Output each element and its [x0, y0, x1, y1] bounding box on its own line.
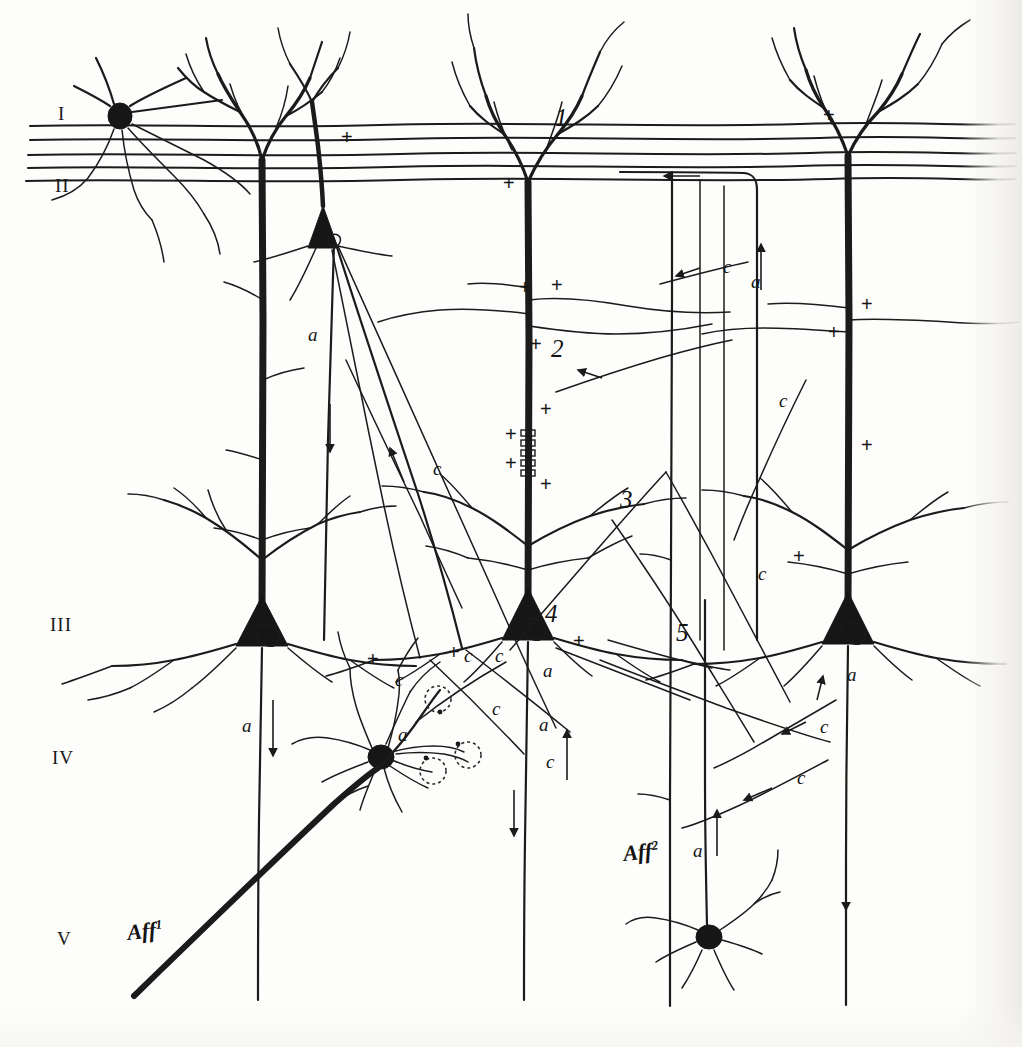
plus-marker: + — [367, 648, 379, 670]
plus-marker: + — [828, 321, 840, 343]
plus-marker: + — [823, 104, 835, 126]
plus-marker: + — [519, 276, 531, 298]
layer-label-iii: III — [50, 614, 72, 635]
collateral-label-9: c — [758, 563, 767, 584]
collateral-label-8: c — [779, 390, 788, 411]
afferent-label-1: Aff1 — [124, 916, 164, 945]
plus-markers: + + + + + + + + + + + + + + + + + — [341, 104, 873, 670]
axon-label-4: a — [543, 660, 553, 681]
marker-1: 1 — [555, 104, 568, 131]
plus-marker: + — [503, 172, 515, 194]
axon-label-6: a — [751, 271, 761, 292]
layer-label-ii: II — [55, 175, 70, 196]
pyramid-layer1-horizontal — [52, 58, 250, 262]
collateral-label-5: c — [492, 698, 501, 719]
collateral-label-1: c — [433, 458, 442, 479]
numbered-markers: 1 2 3 4 5 — [545, 104, 689, 646]
axon-label-7: a — [847, 664, 857, 685]
axon-label-5: a — [539, 714, 549, 735]
collateral-label-4: c — [495, 645, 504, 666]
plus-marker: + — [530, 333, 542, 355]
ascending-axon-to-layer1 — [620, 172, 761, 640]
plus-marker: + — [505, 423, 517, 445]
axon-label-2: a — [242, 715, 252, 736]
collateral-label-6: c — [546, 751, 555, 772]
axon-label-8: a — [693, 840, 703, 861]
pyramid-layer2-small — [254, 28, 462, 648]
tangential-fiber-band — [26, 123, 1016, 181]
layer-label-v: V — [57, 928, 72, 949]
collateral-label-2: c — [395, 669, 404, 690]
plus-marker: + — [551, 274, 563, 296]
layer-label-i: I — [58, 103, 65, 124]
marker-4: 4 — [545, 600, 558, 627]
afferent-fiber-2 — [638, 172, 672, 1006]
plus-marker: + — [448, 641, 460, 663]
collateral-labels: c c c c c c c c c c c — [395, 256, 829, 788]
layer-label-iv: IV — [52, 747, 74, 768]
axon-label-3: a — [398, 724, 408, 745]
plus-marker: + — [861, 434, 873, 456]
collateral-label-11: c — [797, 767, 806, 788]
layer-labels: I II III IV V — [50, 103, 74, 949]
marker-2: 2 — [551, 335, 564, 362]
axon-label-1: a — [308, 324, 318, 345]
afferent-label-2: Aff2 — [620, 837, 660, 866]
collateral-label-10: c — [820, 716, 829, 737]
plus-marker: + — [341, 126, 353, 148]
plus-marker: + — [793, 545, 805, 567]
collateral-label-3: c — [464, 645, 473, 666]
collateral-label-7: c — [723, 256, 732, 277]
plus-marker: + — [861, 293, 873, 315]
marker-5: 5 — [676, 619, 689, 646]
cortical-circuit-illustration: I II III IV V 1 2 3 4 5 a a a a a a a a … — [0, 0, 1022, 1047]
plus-marker: + — [540, 473, 552, 495]
plus-marker: + — [540, 398, 552, 420]
plus-marker: + — [505, 452, 517, 474]
afferent-fiber-1 — [134, 690, 440, 996]
plus-marker: + — [573, 630, 585, 652]
figure-canvas: I II III IV V 1 2 3 4 5 a a a a a a a a … — [0, 0, 1022, 1047]
marker-3: 3 — [619, 486, 633, 513]
